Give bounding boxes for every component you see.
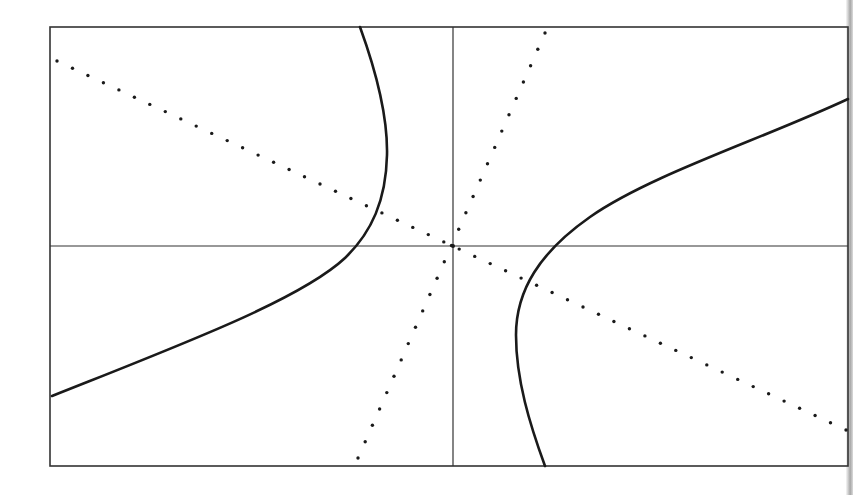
asymptote-dot bbox=[55, 59, 58, 62]
asymptote-dot bbox=[318, 182, 321, 185]
asymptote-dot bbox=[435, 277, 438, 280]
asymptote-dot bbox=[414, 326, 417, 329]
asymptote-dot bbox=[522, 80, 525, 83]
asymptote-dot bbox=[443, 260, 446, 263]
asymptote-dot bbox=[411, 226, 414, 229]
asymptote-dot bbox=[486, 162, 489, 165]
asymptote-dot bbox=[507, 113, 510, 116]
asymptote-dot bbox=[535, 284, 538, 287]
asymptote-dot bbox=[736, 378, 739, 381]
asymptote-dot bbox=[380, 211, 383, 214]
asymptote-dot bbox=[844, 428, 847, 431]
asymptote-dot bbox=[392, 375, 395, 378]
asymptote-dot bbox=[287, 168, 290, 171]
asymptote-dot bbox=[721, 370, 724, 373]
asymptote-dot bbox=[356, 456, 359, 459]
asymptote-dot bbox=[427, 233, 430, 236]
asymptote-dot bbox=[407, 342, 410, 345]
asymptote-dot bbox=[464, 211, 467, 214]
asymptote-dot bbox=[489, 262, 492, 265]
asymptote-dot bbox=[179, 117, 182, 120]
asymptote-dot bbox=[256, 153, 259, 156]
asymptote-dot bbox=[659, 342, 662, 345]
asymptote-dot bbox=[428, 293, 431, 296]
asymptote-dot bbox=[690, 356, 693, 359]
asymptote-dot bbox=[813, 414, 816, 417]
asymptote-dot bbox=[519, 276, 522, 279]
asymptote-dot bbox=[504, 269, 507, 272]
asymptote-dot bbox=[473, 255, 476, 258]
asymptote-dot bbox=[272, 161, 275, 164]
asymptote-dot bbox=[371, 424, 374, 427]
asymptote-dot bbox=[674, 349, 677, 352]
asymptote-dot bbox=[536, 48, 539, 51]
asymptote-dot bbox=[385, 391, 388, 394]
asymptote-dot bbox=[210, 132, 213, 135]
asymptote-dot bbox=[334, 190, 337, 193]
asymptote-dot bbox=[597, 313, 600, 316]
asymptote-dot bbox=[365, 204, 368, 207]
asymptote-dot bbox=[500, 129, 503, 132]
asymptote-dot bbox=[364, 440, 367, 443]
asymptote-dot bbox=[442, 240, 445, 243]
asymptote-dot bbox=[396, 219, 399, 222]
asymptote-dot bbox=[421, 309, 424, 312]
asymptote-dot bbox=[133, 96, 136, 99]
asymptote-dot bbox=[471, 195, 474, 198]
asymptote-dot bbox=[86, 74, 89, 77]
asymptote-dot bbox=[752, 385, 755, 388]
asymptote-dot bbox=[378, 407, 381, 410]
asymptote-dot bbox=[117, 88, 120, 91]
right-branch bbox=[516, 99, 848, 466]
asymptote-dot bbox=[164, 110, 167, 113]
asymptote-dot bbox=[457, 228, 460, 231]
asymptote-dot bbox=[798, 407, 801, 410]
asymptote-dot bbox=[529, 64, 532, 67]
asymptote-dot bbox=[102, 81, 105, 84]
asymptote-dot bbox=[400, 358, 403, 361]
asymptote-dot bbox=[226, 139, 229, 142]
asymptote-dot bbox=[148, 103, 151, 106]
origin-point bbox=[451, 244, 455, 248]
asymptote-dot bbox=[566, 298, 569, 301]
asymptote-dot bbox=[458, 247, 461, 250]
asymptote-dot bbox=[543, 31, 546, 34]
asymptote-dot bbox=[550, 291, 553, 294]
asymptote-dot bbox=[705, 363, 708, 366]
asymptote-dot bbox=[195, 124, 198, 127]
asymptote-dot bbox=[767, 392, 770, 395]
asymptote-dot bbox=[241, 146, 244, 149]
asymptote-dot bbox=[643, 334, 646, 337]
asymptote-dot bbox=[515, 97, 518, 100]
asymptote-dot bbox=[349, 197, 352, 200]
asymptote-dot bbox=[612, 320, 615, 323]
hyperbola-diagram bbox=[0, 0, 853, 495]
asymptote-dot bbox=[829, 421, 832, 424]
asymptote-dot bbox=[493, 146, 496, 149]
asymptote-dot bbox=[303, 175, 306, 178]
asymptote-dot bbox=[71, 67, 74, 70]
asymptote-dot bbox=[581, 305, 584, 308]
asymptote-dot bbox=[479, 178, 482, 181]
asymptote-dot bbox=[782, 399, 785, 402]
asymptote-dot bbox=[628, 327, 631, 330]
